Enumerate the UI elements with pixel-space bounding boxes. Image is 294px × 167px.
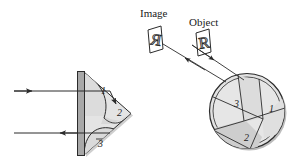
- sphere-region-2-label: 2: [244, 133, 249, 143]
- prism-region-3-label: 3: [98, 139, 103, 149]
- sphere-assembly: [210, 74, 287, 161]
- ray-sphere-to-image-line: [163, 44, 226, 82]
- optics-figure: R R Image Object 1 2 3 1 2 3: [0, 0, 294, 167]
- prism-flat-face-bar: [78, 72, 85, 156]
- prism-assembly: [14, 72, 133, 158]
- object-caption: Object: [189, 17, 218, 28]
- prism-region-2-label: 2: [117, 108, 122, 118]
- ray-sphere-to-image-arrow: [185, 58, 205, 70]
- object-glyph-box: R: [196, 29, 211, 56]
- prism-region-1-label: 1: [101, 86, 106, 96]
- image-caption: Image: [140, 8, 167, 19]
- figure-canvas: R R: [0, 0, 294, 167]
- image-glyph-box: R: [148, 26, 163, 53]
- sphere-region-3-label: 3: [234, 99, 239, 109]
- sphere-region-1-label: 1: [269, 104, 274, 114]
